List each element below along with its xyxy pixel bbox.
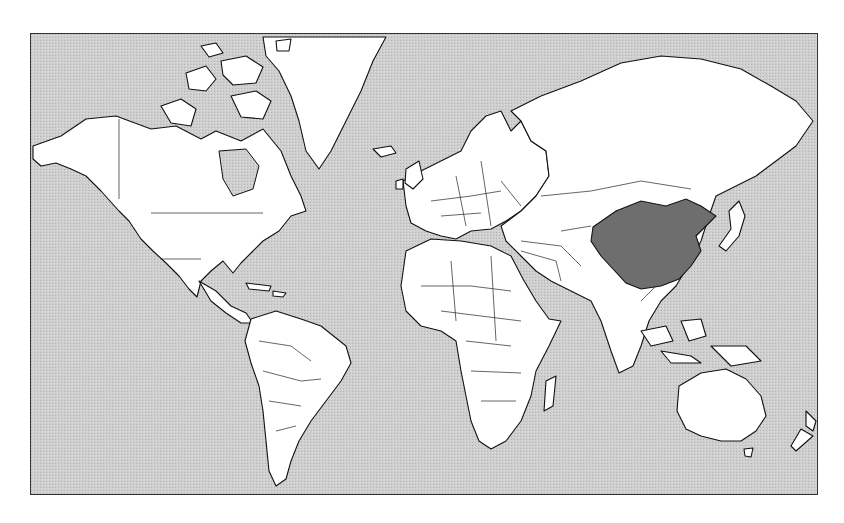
world-map	[31, 34, 818, 495]
world-map-frame	[30, 33, 818, 495]
landmass-tasmania	[744, 448, 753, 457]
